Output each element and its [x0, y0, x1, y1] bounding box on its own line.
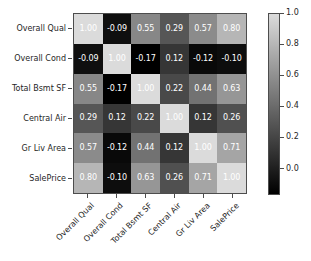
heatmap-cell-value: 1.00 [166, 114, 183, 122]
heatmap-cell-value: -0.09 [107, 25, 127, 33]
heatmap-cell-value: 1.00 [223, 174, 240, 182]
heatmap-cell: 0.44 [131, 133, 160, 163]
y-axis-tick-label: Overall Cond [0, 43, 67, 73]
heatmap-cell: 0.12 [189, 104, 218, 134]
heatmap-cell-value: 0.12 [194, 114, 211, 122]
y-axis-tick-label: Gr Liv Area [0, 134, 67, 164]
heatmap-cell-value: 0.63 [223, 85, 240, 93]
heatmap-cell: -0.09 [103, 14, 132, 44]
heatmap-cell: -0.12 [189, 44, 218, 74]
heatmap-cell-value: 0.22 [137, 114, 154, 122]
heatmap-cell: 0.29 [74, 104, 103, 134]
colorbar-tick-label: 0.4 [286, 102, 299, 110]
colorbar-tick-mark [280, 44, 284, 45]
heatmap-cell-value: 0.80 [223, 25, 240, 33]
heatmap-cell: -0.10 [103, 163, 132, 193]
heatmap-cell-value: 0.44 [194, 85, 211, 93]
heatmap-cell-value: 0.55 [80, 85, 97, 93]
x-axis-tick-labels: Overall QualOverall CondTotal Bsmt SFCen… [73, 199, 247, 259]
heatmap-cell: 0.22 [160, 74, 189, 104]
heatmap-cell-value: -0.10 [222, 55, 242, 63]
colorbar-tick-mark [280, 13, 284, 14]
heatmap-cell: -0.17 [131, 44, 160, 74]
y-axis-tick-label: Total Bsmt SF [0, 73, 67, 103]
colorbar-tick-mark [280, 106, 284, 107]
colorbar-gradient [269, 14, 279, 194]
colorbar [268, 13, 280, 195]
heatmap-plot-area: 1.00-0.090.550.290.570.80-0.091.00-0.170… [73, 13, 247, 194]
heatmap-cell-value: 0.71 [194, 174, 211, 182]
x-axis-tick-label: Overall Qual [0, 201, 96, 261]
heatmap-cell: 0.71 [217, 133, 246, 163]
heatmap-cell-value: -0.17 [136, 55, 156, 63]
heatmap-cell-value: -0.17 [107, 85, 127, 93]
heatmap-cell-value: 0.57 [194, 25, 211, 33]
heatmap-cell-value: 0.26 [223, 114, 240, 122]
heatmap-cell: 0.26 [217, 104, 246, 134]
heatmap-cell-value: 0.71 [223, 144, 240, 152]
heatmap-cell-value: 0.12 [166, 144, 183, 152]
heatmap-cell: -0.10 [217, 44, 246, 74]
heatmap-cell-value: -0.09 [78, 55, 98, 63]
heatmap-cell-value: 1.00 [137, 85, 154, 93]
heatmap-cell-value: 0.12 [108, 114, 125, 122]
heatmap-cell: 0.57 [189, 14, 218, 44]
colorbar-tick-label: 1.0 [286, 9, 299, 17]
heatmap-cell-value: 0.63 [137, 174, 154, 182]
heatmap-cell-value: 0.80 [80, 174, 97, 182]
correlation-heatmap-figure: Overall QualOverall CondTotal Bsmt SFCen… [0, 0, 311, 261]
heatmap-cell: -0.12 [103, 133, 132, 163]
colorbar-tick-mark [280, 168, 284, 169]
heatmap-cell-grid: 1.00-0.090.550.290.570.80-0.091.00-0.170… [74, 14, 246, 193]
heatmap-cell: 1.00 [217, 163, 246, 193]
heatmap-cell: 1.00 [160, 104, 189, 134]
heatmap-cell-value: 0.22 [166, 85, 183, 93]
colorbar-tick-label: 0.2 [286, 133, 299, 141]
heatmap-cell-value: 1.00 [80, 25, 97, 33]
heatmap-cell: 0.12 [160, 133, 189, 163]
heatmap-cell: 1.00 [103, 44, 132, 74]
y-axis-tick-labels: Overall QualOverall CondTotal Bsmt SFCen… [0, 13, 67, 194]
heatmap-cell: 0.12 [103, 104, 132, 134]
heatmap-cell: 0.44 [189, 74, 218, 104]
heatmap-cell-value: 0.44 [137, 144, 154, 152]
y-axis-tick-label: Central Air [0, 103, 67, 133]
heatmap-cell: 0.57 [74, 133, 103, 163]
heatmap-cell: 1.00 [74, 14, 103, 44]
heatmap-cell: 0.26 [160, 163, 189, 193]
colorbar-tick-labels: 0.00.20.40.60.81.0 [280, 13, 311, 195]
heatmap-cell: -0.09 [74, 44, 103, 74]
heatmap-cell-value: 0.29 [166, 25, 183, 33]
heatmap-cell: 0.22 [131, 104, 160, 134]
heatmap-cell-value: -0.12 [193, 55, 213, 63]
heatmap-cell: 0.12 [160, 44, 189, 74]
heatmap-cell-value: 1.00 [108, 55, 125, 63]
heatmap-cell-value: 1.00 [194, 144, 211, 152]
heatmap-cell: 0.55 [74, 74, 103, 104]
heatmap-cell: 1.00 [189, 133, 218, 163]
colorbar-tick-mark [280, 137, 284, 138]
heatmap-cell: 0.71 [189, 163, 218, 193]
heatmap-cell: 0.55 [131, 14, 160, 44]
heatmap-cell-value: -0.12 [107, 144, 127, 152]
heatmap-cell: -0.17 [103, 74, 132, 104]
heatmap-cell: 0.80 [217, 14, 246, 44]
heatmap-cell-value: 0.29 [80, 114, 97, 122]
heatmap-cell: 0.63 [217, 74, 246, 104]
heatmap-cell-value: -0.10 [107, 174, 127, 182]
colorbar-tick-mark [280, 75, 284, 76]
heatmap-cell: 0.29 [160, 14, 189, 44]
y-axis-tick-label: Overall Qual [0, 13, 67, 43]
heatmap-cell-value: 0.12 [166, 55, 183, 63]
heatmap-cell: 0.63 [131, 163, 160, 193]
y-axis-tick-label: SalePrice [0, 164, 67, 194]
heatmap-cell-value: 0.57 [80, 144, 97, 152]
heatmap-cell-value: 0.55 [137, 25, 154, 33]
heatmap-cell: 0.80 [74, 163, 103, 193]
colorbar-tick-label: 0.8 [286, 40, 299, 48]
colorbar-tick-label: 0.6 [286, 71, 299, 79]
heatmap-cell-value: 0.26 [166, 174, 183, 182]
heatmap-cell: 1.00 [131, 74, 160, 104]
colorbar-tick-label: 0.0 [286, 164, 299, 172]
